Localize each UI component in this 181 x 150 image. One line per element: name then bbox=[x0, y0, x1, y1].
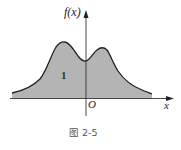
origin-label: O bbox=[88, 99, 96, 110]
shaded-area bbox=[12, 42, 152, 98]
y-axis-label: f(x) bbox=[64, 6, 81, 18]
area-annotation: 1 bbox=[61, 70, 67, 81]
x-axis-label: x bbox=[164, 100, 169, 111]
y-axis-arrow-icon bbox=[84, 10, 89, 18]
figure-caption: 图 2-5 bbox=[69, 125, 98, 139]
